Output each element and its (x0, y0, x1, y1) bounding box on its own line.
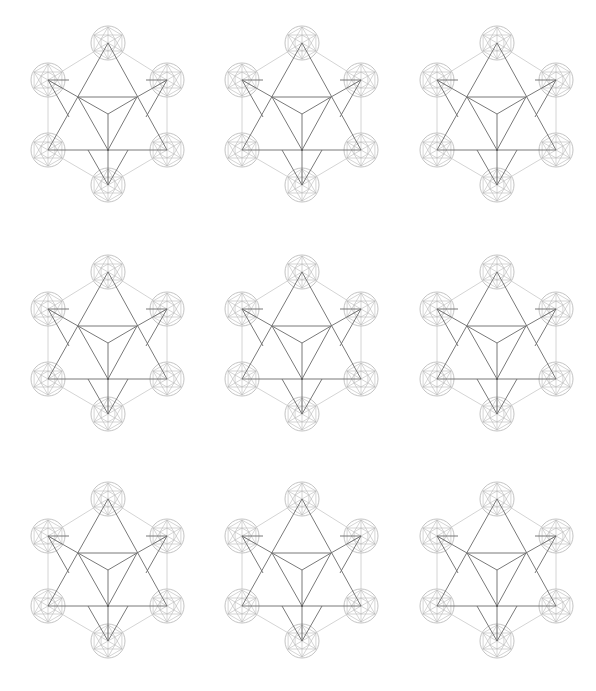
metatron-figure-r1c2 (225, 26, 378, 202)
metatron-figure-r3c1 (31, 482, 184, 658)
metatron-figure-r1c3 (420, 26, 573, 202)
diagram-canvas (0, 0, 596, 691)
metatron-figure-r2c2 (225, 255, 378, 431)
figure-grid (31, 26, 573, 658)
metatron-figure-r2c3 (420, 255, 573, 431)
metatron-figure-r2c1 (31, 255, 184, 431)
metatron-figure-r3c2 (225, 482, 378, 658)
metatron-figure-r3c3 (420, 482, 573, 658)
metatron-figure-r1c1 (31, 26, 184, 202)
